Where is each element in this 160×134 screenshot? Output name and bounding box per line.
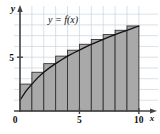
- riemann-rectangle: [56, 56, 68, 111]
- next-figure-edge: [0, 126, 160, 134]
- riemann-rectangle: [115, 30, 127, 111]
- riemann-rectangle: [79, 44, 91, 111]
- riemann-rectangle: [91, 39, 103, 111]
- riemann-sum-plot: 5105: [0, 0, 160, 134]
- y-tick-label: 5: [9, 53, 14, 63]
- x-tick-label: 10: [134, 115, 144, 125]
- riemann-rectangle: [103, 35, 115, 111]
- riemann-sum-figure: 5105 y x y = f(x) 0: [0, 0, 160, 134]
- riemann-rectangle: [127, 26, 139, 111]
- riemann-rectangle: [68, 50, 80, 111]
- x-tick-label: 5: [77, 115, 82, 125]
